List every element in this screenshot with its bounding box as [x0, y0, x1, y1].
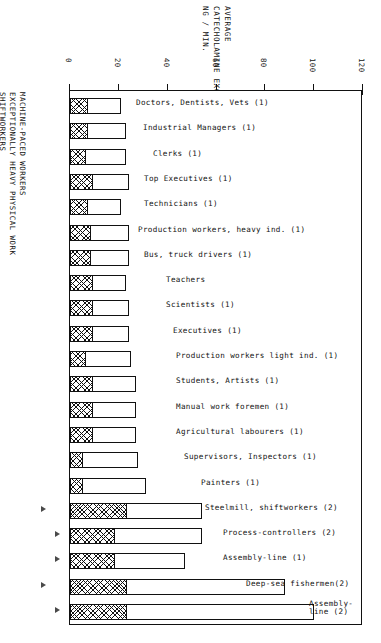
bar-hatched-segment: [71, 251, 91, 265]
bar-label: Supervisors, Inspectors (1): [184, 453, 317, 461]
bar: [70, 300, 129, 316]
bar-label: Production workers, heavy ind. (1): [138, 226, 305, 234]
bar-label: Steelmill, shiftworkers (2): [205, 504, 338, 512]
bar-label: Top Executives (1): [144, 175, 233, 183]
bar-label: Manual work foremen (1): [176, 403, 289, 411]
triangle-marker: [41, 582, 46, 588]
bar-label: Agricultural labourers (1): [176, 428, 304, 436]
category-group-label-0: MACHINE-PACED WORKERS: [18, 92, 27, 196]
axis-title-line-3: NG / MIN.: [201, 6, 210, 53]
bar: [70, 427, 136, 443]
bar-hatched-segment: [71, 504, 127, 518]
bar-hatched-segment: [71, 428, 93, 442]
bar-hatched-segment: [71, 554, 115, 568]
bar: [70, 174, 129, 190]
bar-hatched-segment: [71, 276, 93, 290]
bar-hatched-segment: [71, 327, 93, 341]
bar-hatched-segment: [71, 301, 93, 315]
bar-label: Assembly- line (2): [309, 600, 353, 617]
bar: [70, 604, 314, 620]
bar-hatched-segment: [71, 99, 88, 113]
triangle-marker: [55, 607, 60, 613]
bar-hatched-segment: [71, 377, 93, 391]
bar: [70, 199, 121, 215]
bar-hatched-segment: [71, 403, 93, 417]
triangle-marker: [41, 506, 46, 512]
bar: [70, 528, 202, 544]
bar: [70, 376, 136, 392]
bar: [70, 553, 185, 569]
bar: [70, 478, 146, 494]
bar-label: Industrial Managers (1): [143, 124, 256, 132]
catecholamine-bar-chart-figure: AVERAGE CATECHOLAMINE EXCRETION NG / MIN…: [0, 0, 381, 643]
triangle-marker: [55, 556, 60, 562]
bar: [70, 275, 126, 291]
bar-hatched-segment: [71, 605, 127, 619]
category-group-label-1: EXCEPTIONALLY HEAVY PHYSICAL WORK: [8, 92, 17, 255]
bar: [70, 250, 129, 266]
plot-area: Doctors, Dentists, Vets (1)Industrial Ma…: [69, 90, 362, 625]
bar-label: Production workers light ind. (1): [176, 352, 338, 360]
triangle-marker: [55, 531, 60, 537]
x-tick-label-40: 40: [162, 58, 171, 68]
bar: [70, 98, 121, 114]
bar-hatched-segment: [71, 175, 93, 189]
x-tick-120: [362, 84, 363, 95]
bar-hatched-segment: [71, 453, 83, 467]
x-tick-label-80: 80: [259, 58, 268, 68]
bar-label: Teachers: [166, 276, 205, 284]
bar-label: Assembly-line (1): [223, 554, 307, 562]
bar-label: Technicians (1): [144, 200, 218, 208]
x-tick-label-60: 60: [211, 58, 220, 68]
x-tick-label-100: 100: [308, 58, 317, 73]
bar: [70, 225, 129, 241]
bar-hatched-segment: [71, 200, 88, 214]
bar-hatched-segment: [71, 580, 127, 594]
bar: [70, 402, 136, 418]
bar-label: Painters (1): [201, 479, 260, 487]
bar-label: Doctors, Dentists, Vets (1): [136, 99, 269, 107]
bar-label: Process-controllers (2): [223, 529, 336, 537]
x-tick-label-120: 120: [357, 58, 366, 73]
x-tick-label-0: 0: [64, 58, 73, 63]
axis-title-line-1: AVERAGE: [223, 6, 232, 42]
bar-hatched-segment: [71, 479, 83, 493]
bar-hatched-segment: [71, 226, 91, 240]
bar: [70, 351, 131, 367]
bar-label: Students, Artists (1): [176, 377, 279, 385]
x-tick-label-20: 20: [113, 58, 122, 68]
bar-hatched-segment: [71, 124, 88, 138]
bar-hatched-segment: [71, 352, 86, 366]
bar-label: Bus, truck drivers (1): [144, 251, 252, 259]
bar-label: Scientists (1): [166, 301, 235, 309]
bar: [70, 503, 202, 519]
bar: [70, 123, 126, 139]
bar: [70, 149, 126, 165]
category-group-label-2: SHIFTWORKERS: [0, 92, 7, 151]
bar: [70, 452, 138, 468]
bar-label: Clerks (1): [153, 150, 202, 158]
bar-row: Assembly- line (2): [70, 598, 361, 628]
bar-hatched-segment: [71, 150, 86, 164]
bar-hatched-segment: [71, 529, 115, 543]
bar: [70, 326, 129, 342]
bar-label: Deep-sea fishermen(2): [246, 580, 349, 588]
bar-label: Executives (1): [173, 327, 242, 335]
